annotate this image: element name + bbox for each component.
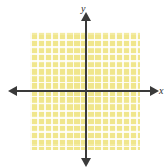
coordinate-plane-figure: y x [0,0,168,168]
x-axis-label: x [159,86,163,96]
y-axis-line [85,20,87,160]
x-axis-right-arrow-icon [150,86,159,96]
y-axis-down-arrow-icon [81,158,91,167]
x-axis-left-arrow-icon [8,86,17,96]
y-axis-label: y [81,4,85,14]
x-axis-line [16,90,152,92]
